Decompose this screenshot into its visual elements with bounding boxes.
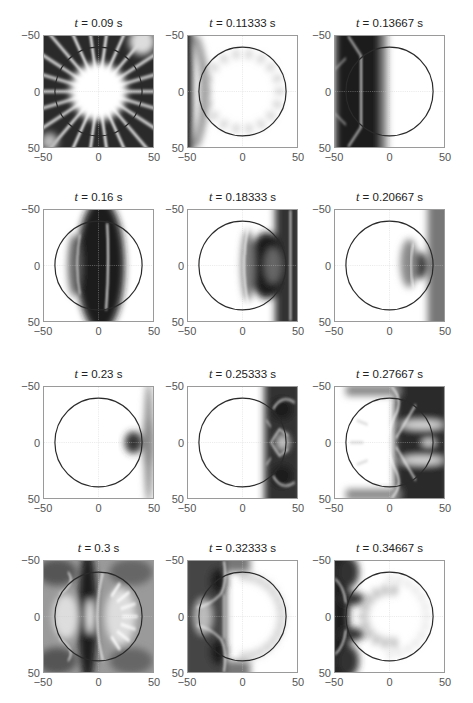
wavefield-image [44, 36, 153, 147]
time-value: = 0.20667 s [359, 191, 423, 203]
x-tick-label: 50 [148, 676, 160, 688]
x-tick-label: 50 [439, 151, 451, 163]
x-tick-label: 50 [439, 502, 451, 514]
x-tick-label: 0 [386, 676, 392, 688]
x-tick-label: −50 [325, 502, 344, 514]
y-tick-label: 0 [325, 86, 334, 98]
y-tick-label: −50 [165, 554, 187, 566]
y-tick-label: 0 [325, 611, 334, 623]
time-value: = 0.09 s [78, 17, 122, 29]
wavefield-image [188, 561, 297, 672]
plot-area [334, 35, 445, 148]
y-tick-label: −50 [21, 203, 43, 215]
time-value: = 0.34667 s [359, 542, 423, 554]
x-tick-label: 50 [292, 676, 304, 688]
plot-area [43, 386, 154, 499]
wavefield-image [335, 387, 444, 498]
x-tick-label: −50 [325, 325, 344, 337]
panel-title: t = 0.11333 s [209, 16, 275, 31]
x-tick-label: −50 [178, 676, 197, 688]
y-tick-label: 0 [325, 260, 334, 272]
y-tick-label: 0 [325, 437, 334, 449]
plot-area [43, 560, 154, 673]
y-tick-label: 0 [178, 86, 187, 98]
x-tick-label: −50 [325, 151, 344, 163]
y-tick-label: −50 [165, 29, 187, 41]
y-tick-label: −50 [21, 29, 43, 41]
wavefield-image [335, 210, 444, 321]
x-tick-label: 0 [95, 151, 101, 163]
y-tick-label: −50 [312, 554, 334, 566]
x-tick-label: −50 [34, 151, 53, 163]
x-tick-label: 50 [292, 325, 304, 337]
x-tick-label: −50 [34, 325, 53, 337]
y-tick-label: 0 [178, 611, 187, 623]
y-tick-label: −50 [312, 29, 334, 41]
wavefield-image [44, 387, 153, 498]
x-tick-label: 0 [95, 676, 101, 688]
x-tick-label: −50 [178, 325, 197, 337]
wavefield-image [188, 210, 297, 321]
plot-area [187, 209, 298, 322]
x-tick-label: 50 [439, 325, 451, 337]
x-tick-label: 0 [386, 151, 392, 163]
x-tick-label: 50 [292, 502, 304, 514]
panel-title: t = 0.27667 s [356, 367, 423, 382]
x-tick-label: 0 [95, 325, 101, 337]
x-tick-label: −50 [178, 502, 197, 514]
time-value: = 0.3 s [81, 542, 119, 554]
x-tick-label: 0 [239, 325, 245, 337]
y-tick-label: −50 [165, 380, 187, 392]
plot-area [43, 209, 154, 322]
x-tick-label: −50 [34, 502, 53, 514]
x-tick-label: 50 [439, 676, 451, 688]
x-tick-label: 0 [386, 502, 392, 514]
y-tick-label: −50 [165, 203, 187, 215]
y-tick-label: −50 [21, 554, 43, 566]
panel-title: t = 0.23 s [75, 367, 123, 382]
y-tick-label: 0 [34, 437, 43, 449]
wavefield-image [335, 561, 444, 672]
panel-title: t = 0.16 s [75, 190, 123, 205]
wavefield-image [188, 387, 297, 498]
x-tick-label: 0 [239, 676, 245, 688]
x-tick-label: 0 [95, 502, 101, 514]
y-tick-label: 0 [34, 611, 43, 623]
wavefield-image [335, 36, 444, 147]
y-tick-label: −50 [21, 380, 43, 392]
time-value: = 0.16 s [78, 191, 122, 203]
time-value: = 0.13667 s [359, 17, 423, 29]
y-tick-label: −50 [312, 203, 334, 215]
wavefield-image [44, 210, 153, 321]
plot-area [187, 386, 298, 499]
wavefield-image [188, 36, 297, 147]
x-tick-label: −50 [34, 676, 53, 688]
panel-title: t = 0.18333 s [209, 190, 276, 205]
panel-title: t = 0.34667 s [356, 541, 423, 556]
plot-area [187, 560, 298, 673]
time-value: = 0.27667 s [359, 368, 423, 380]
panel-title: t = 0.3 s [78, 541, 120, 556]
y-tick-label: 0 [34, 260, 43, 272]
x-tick-label: 50 [148, 151, 160, 163]
plot-area [334, 560, 445, 673]
time-value: = 0.32333 s [212, 542, 276, 554]
time-value: = 0.18333 s [212, 191, 276, 203]
x-tick-label: −50 [325, 676, 344, 688]
panel-title: t = 0.13667 s [356, 16, 423, 31]
x-tick-label: 50 [148, 325, 160, 337]
time-value: = 0.25333 s [212, 368, 276, 380]
x-tick-label: 0 [239, 502, 245, 514]
plot-area [187, 35, 298, 148]
x-tick-label: 0 [386, 325, 392, 337]
y-tick-label: 0 [34, 86, 43, 98]
y-tick-label: 0 [178, 437, 187, 449]
x-tick-label: 50 [148, 502, 160, 514]
x-tick-label: −50 [178, 151, 197, 163]
plot-area [334, 386, 445, 499]
plot-area [334, 209, 445, 322]
time-value: = 0.11333 s [213, 17, 276, 29]
panel-title: t = 0.32333 s [209, 541, 276, 556]
y-tick-label: −50 [312, 380, 334, 392]
panel-title: t = 0.09 s [75, 16, 123, 31]
